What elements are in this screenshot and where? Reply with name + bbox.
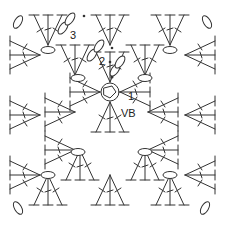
center-label-vb: VB xyxy=(121,107,136,119)
round-label-2: 2 xyxy=(99,55,105,67)
chain-loops xyxy=(11,11,213,216)
round-label-3: 3 xyxy=(70,29,76,41)
crochet-chart: 3 2 1 VB xyxy=(0,0,225,227)
inner-fans xyxy=(70,52,150,132)
round-label-1: 1 xyxy=(128,90,134,102)
outer-fans xyxy=(10,15,215,205)
